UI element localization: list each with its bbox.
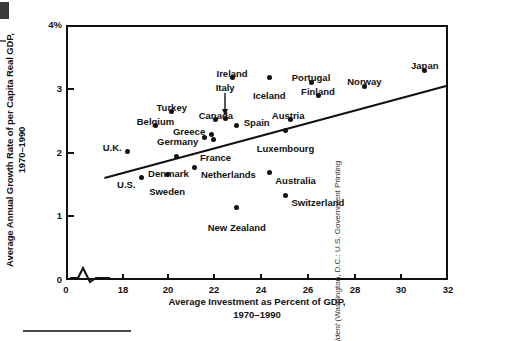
data-point bbox=[192, 165, 197, 170]
data-point-label: Norway bbox=[347, 77, 381, 87]
data-point-label: Greece bbox=[173, 127, 205, 137]
data-point-label: Japan bbox=[411, 61, 438, 71]
data-point bbox=[234, 205, 239, 210]
data-point-label: New Zealand bbox=[208, 223, 266, 233]
data-point bbox=[211, 137, 216, 142]
data-point-label: Italy bbox=[216, 83, 235, 93]
data-point-label: Germany bbox=[157, 137, 198, 147]
data-point-label: Sweden bbox=[149, 187, 185, 197]
data-point bbox=[283, 193, 288, 198]
data-point-label: U.K. bbox=[103, 143, 122, 153]
data-point-label: Finland bbox=[301, 87, 335, 97]
data-point bbox=[139, 175, 144, 180]
data-point-label: France bbox=[200, 153, 231, 163]
data-point-label: U.S. bbox=[117, 180, 135, 190]
source-suffix: (Washington, D.C.: U.S. Government Print… bbox=[333, 161, 353, 341]
data-point bbox=[125, 149, 130, 154]
data-point-label: Belgium bbox=[137, 117, 174, 127]
italy-callout-arrow-icon bbox=[220, 93, 230, 119]
data-point bbox=[267, 75, 272, 80]
source-title: Economic Report of the President bbox=[333, 324, 342, 341]
data-point-label: Luxembourg bbox=[257, 144, 315, 154]
data-point-label: Netherlands bbox=[201, 170, 256, 180]
data-point-label: Ireland bbox=[217, 69, 248, 79]
scatter-data-layer: U.K.U.S.BelgiumSwedenTurkeyDenmarkNether… bbox=[0, 0, 507, 341]
data-point-label: Spain bbox=[244, 118, 270, 128]
data-point-label: Denmark bbox=[148, 169, 189, 179]
data-point-label: Iceland bbox=[253, 91, 286, 101]
data-point-label: Australia bbox=[275, 176, 316, 186]
data-point bbox=[174, 154, 179, 159]
data-point bbox=[234, 123, 239, 128]
data-point bbox=[283, 128, 288, 133]
source-note: SOURCE: Economic Report of the President… bbox=[332, 152, 354, 341]
data-point bbox=[267, 170, 272, 175]
data-point-label: Austria bbox=[272, 111, 305, 121]
data-point-label: Portugal bbox=[292, 73, 331, 83]
data-point-label: Turkey bbox=[157, 103, 187, 113]
